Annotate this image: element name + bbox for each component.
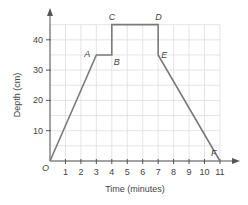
x-axis-arrow-icon	[232, 158, 240, 164]
axes	[47, 8, 240, 164]
x-tick-label: 10	[199, 167, 209, 177]
x-tick-label: 7	[156, 167, 161, 177]
y-axis-label: Depth (cm)	[12, 73, 22, 118]
depth-time-chart: 123456789101110203040 ABCDEF Time (minut…	[0, 0, 248, 205]
x-tick-label: 1	[63, 167, 68, 177]
y-axis-arrow-icon	[47, 8, 53, 16]
point-labels: ABCDEF	[83, 12, 217, 158]
point-label-a: A	[83, 49, 90, 59]
point-label-b: B	[114, 57, 120, 67]
x-tick-label: 11	[215, 167, 224, 177]
grid	[50, 25, 220, 161]
point-label-c: C	[109, 12, 116, 22]
tick-labels: 123456789101110203040	[33, 35, 225, 177]
y-tick-label: 40	[33, 35, 43, 45]
x-axis-label: Time (minutes)	[105, 184, 165, 194]
depth-line	[50, 25, 220, 161]
x-tick-label: 6	[140, 167, 145, 177]
x-tick-label: 5	[125, 167, 130, 177]
x-tick-label: 2	[78, 167, 83, 177]
point-label-f: F	[211, 148, 217, 158]
point-label-e: E	[161, 50, 168, 60]
point-label-d: D	[155, 12, 162, 22]
x-tick-label: 9	[187, 167, 192, 177]
x-tick-label: 3	[94, 167, 99, 177]
origin-label: O	[42, 163, 49, 173]
x-tick-label: 8	[171, 167, 176, 177]
y-tick-label: 20	[33, 95, 43, 105]
y-tick-label: 30	[33, 65, 43, 75]
y-tick-label: 10	[33, 126, 43, 136]
x-tick-label: 4	[109, 167, 114, 177]
